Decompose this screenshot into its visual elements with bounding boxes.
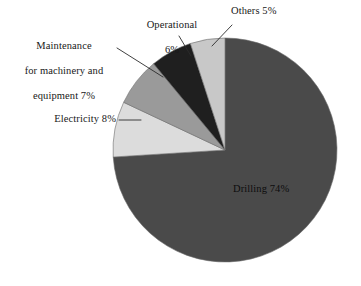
pie-label-maintenance-line2: for machinery and bbox=[8, 65, 120, 78]
pie-label-operational-line1: Operational bbox=[130, 19, 214, 32]
pie-label-operational: Operational 6% bbox=[130, 6, 214, 69]
pie-label-maintenance-line1: Maintenance bbox=[8, 40, 120, 53]
pie-chart: Maintenance for machinery and equipment … bbox=[0, 0, 361, 286]
pie-slices bbox=[113, 38, 337, 262]
pie-label-operational-line2: 6% bbox=[130, 44, 214, 57]
pie-label-maintenance-line3: equipment 7% bbox=[8, 90, 120, 103]
pie-label-others: Others 5% bbox=[231, 5, 311, 18]
pie-label-maintenance: Maintenance for machinery and equipment … bbox=[8, 27, 120, 115]
pie-label-electricity: Electricity 8% bbox=[24, 113, 116, 126]
pie-label-drilling: Drilling 74% bbox=[233, 183, 289, 195]
